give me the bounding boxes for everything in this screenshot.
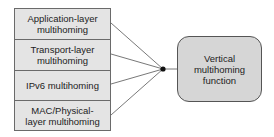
function-label-line1: Vertical bbox=[204, 53, 235, 64]
layer-label-line1: Application-layer bbox=[27, 13, 97, 24]
layer-transport: Transport-layermultihoming bbox=[15, 39, 110, 70]
layer-label-line2: layer multihoming bbox=[25, 116, 99, 127]
junction-dot bbox=[160, 66, 165, 71]
function-label-line2: multihoming bbox=[194, 64, 245, 75]
vertical-multihoming-function-box: Verticalmultihomingfunction bbox=[177, 36, 262, 102]
layer-mac-physical: MAC/Physical-layer multihoming bbox=[15, 100, 110, 130]
layer-label-line2: multihoming bbox=[37, 55, 88, 66]
layer-ipv6: IPv6 multihoming bbox=[15, 70, 110, 100]
layer-application: Application-layermultihoming bbox=[15, 9, 110, 39]
layer-label-line1: Transport-layer bbox=[30, 44, 94, 55]
layer-label-line1: IPv6 multihoming bbox=[26, 80, 99, 91]
layer-label-line1: MAC/Physical- bbox=[31, 105, 93, 116]
multihoming-layer-stack: Application-layermultihoming Transport-l… bbox=[14, 8, 111, 131]
function-label-line3: function bbox=[203, 75, 236, 86]
layer-label-line2: multihoming bbox=[37, 24, 88, 35]
